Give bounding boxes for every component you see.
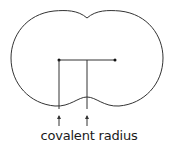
diagram-canvas: [0, 0, 178, 149]
arrow-left-icon: [57, 115, 61, 126]
right-nucleus-dot: [114, 59, 117, 62]
covalent-radius-label: covalent radius: [0, 128, 178, 143]
arrow-midpoint-icon: [85, 115, 89, 126]
